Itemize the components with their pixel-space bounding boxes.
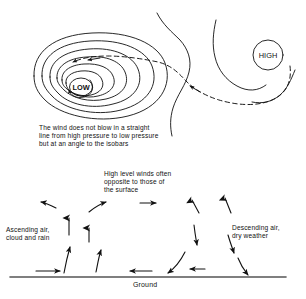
isobar-wave-right	[252, 70, 295, 103]
caption-wind-angle-isobars: The wind does not blow in a straight lin…	[39, 124, 158, 149]
upper-panel	[34, 13, 295, 136]
isobar-4	[57, 57, 127, 101]
weather-diagram	[0, 0, 306, 299]
descending-arrow-lower-right	[238, 258, 248, 275]
wind-trajectory-dashed	[73, 56, 290, 105]
high-level-arrow-centre	[89, 202, 106, 212]
wind-trajectory-arrowhead-inner	[88, 58, 100, 60]
low-centre-ellipse	[70, 78, 93, 96]
label-ground: Ground	[133, 281, 157, 289]
label-ascending-air: Ascending air, cloud and rain	[6, 226, 50, 242]
high-centre-circle	[253, 40, 283, 70]
descending-arrow-upper-left	[192, 200, 199, 213]
wind-trajectory-arrowhead-mid	[190, 86, 200, 92]
descending-arrow-mid-left	[194, 225, 197, 245]
isobar-wave-middle-a	[157, 13, 190, 136]
ascending-arrow-mid	[96, 250, 101, 272]
high-level-arrow-left	[41, 202, 56, 208]
ascending-arrow-lower	[64, 247, 70, 273]
isobar-wave-middle-b	[213, 20, 266, 90]
descending-arrow-upper-right	[225, 198, 231, 213]
isobar-2	[42, 41, 154, 113]
label-high-level-winds: High level winds often opposite to those…	[104, 170, 171, 195]
isobar-group-low	[34, 33, 167, 119]
descending-arrow-lower-left	[168, 252, 185, 273]
label-descending-air: Descending air, dry weather	[232, 224, 280, 240]
